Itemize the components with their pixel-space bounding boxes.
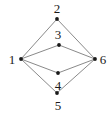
graph-edge-1-3 <box>21 45 59 59</box>
graph-edge-1-2 <box>21 19 57 59</box>
vertex-label-1: 1 <box>9 53 16 66</box>
graph-node-1 <box>19 57 23 61</box>
graph-edge-5-6 <box>57 59 95 93</box>
graph-edge-3-6 <box>59 45 95 59</box>
graph-edge-1-4 <box>21 59 58 73</box>
vertex-label-6: 6 <box>100 53 107 66</box>
graph-edge-4-6 <box>58 59 95 73</box>
graph-node-4 <box>56 71 60 75</box>
graph-node-2 <box>55 17 59 21</box>
vertex-label-2: 2 <box>54 2 61 15</box>
graph-node-3 <box>57 43 61 47</box>
graph-edge-1-5 <box>21 59 57 93</box>
vertex-label-4: 4 <box>55 79 62 92</box>
vertex-label-3: 3 <box>55 28 62 41</box>
graph-node-6 <box>93 57 97 61</box>
graph-edge-2-6 <box>57 19 95 59</box>
graph-diagram: 1 2 3 4 5 6 <box>0 0 112 116</box>
vertex-label-5: 5 <box>55 99 62 112</box>
